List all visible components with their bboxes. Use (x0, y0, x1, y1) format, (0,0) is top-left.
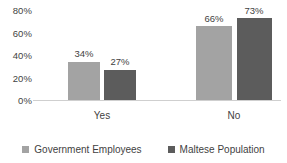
y-axis-tick-label: 20% (0, 72, 32, 83)
bar-no-maltese-population[interactable] (237, 18, 272, 100)
y-axis-tick-label: 60% (0, 27, 32, 38)
bar-yes-government-employees[interactable] (68, 62, 100, 100)
category-label-yes: Yes (94, 110, 110, 121)
bar-data-label: 73% (244, 5, 263, 16)
bar-chart: 80% 60% 40% 20% 0% 34% 27% 66% 73% Yes N… (0, 0, 287, 163)
category-label-no: No (228, 110, 241, 121)
y-axis-tick-label: 0% (0, 95, 32, 106)
legend-item-label: Government Employees (34, 144, 141, 155)
y-axis-tick-label: 40% (0, 50, 32, 61)
legend-swatch-icon (168, 146, 175, 153)
bar-no-government-employees[interactable] (196, 26, 232, 100)
bar-yes-maltese-population[interactable] (104, 70, 136, 100)
plot-area: 80% 60% 40% 20% 0% 34% 27% 66% 73% Yes N… (0, 0, 287, 118)
bar-data-label: 27% (110, 56, 129, 67)
bar-data-label: 66% (204, 13, 223, 24)
chart-legend: Government Employees Maltese Population (0, 141, 287, 157)
legend-item-maltese-population[interactable]: Maltese Population (168, 144, 265, 155)
bar-data-label: 34% (74, 48, 93, 59)
y-axis-tick-label: 80% (0, 5, 32, 16)
legend-item-label: Maltese Population (180, 144, 265, 155)
legend-swatch-icon (22, 146, 29, 153)
x-axis-line (33, 100, 281, 101)
legend-item-government-employees[interactable]: Government Employees (22, 144, 141, 155)
